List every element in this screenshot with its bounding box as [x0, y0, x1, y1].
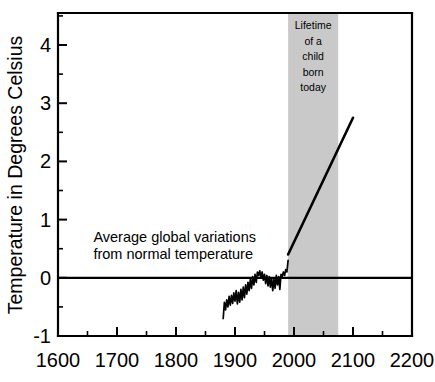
- y-tick-label-2: 1: [40, 209, 51, 231]
- y-tick-label-4: 3: [40, 92, 51, 114]
- band-label-0-line-2: child: [302, 50, 324, 62]
- annotation-0-line-1: from normal temperature: [93, 246, 253, 262]
- y-axis-title-text: Temperature in Degrees Celsius: [4, 35, 26, 314]
- plot-background: [58, 13, 412, 336]
- annotation-0-line-0: Average global variations: [93, 229, 256, 245]
- x-tick-label-4: 2000: [272, 349, 317, 371]
- x-tick-label-3: 1900: [213, 349, 258, 371]
- band-label-0-line-3: born: [303, 66, 324, 78]
- band-label-0-line-4: today: [300, 81, 326, 93]
- plot-annotations: Average global variationsfrom normal tem…: [93, 229, 256, 262]
- chart-container: 1600170018001900200021002200 -101234 Tem…: [0, 0, 435, 382]
- y-axis-tick-labels: -101234: [33, 34, 51, 347]
- x-tick-label-0: 1600: [36, 349, 81, 371]
- band-label-0-line-0: Lifetime: [295, 19, 332, 31]
- x-tick-label-5: 2100: [331, 349, 376, 371]
- y-tick-label-1: 0: [40, 267, 51, 289]
- temperature-projection-chart: 1600170018001900200021002200 -101234 Tem…: [0, 0, 435, 382]
- x-tick-label-1: 1700: [95, 349, 140, 371]
- band-label-0-line-1: of a: [304, 35, 322, 47]
- y-axis-title: Temperature in Degrees Celsius: [4, 35, 26, 314]
- x-tick-label-6: 2200: [390, 349, 435, 371]
- y-tick-label-5: 4: [40, 34, 51, 56]
- x-axis-tick-labels: 1600170018001900200021002200: [36, 349, 435, 371]
- x-tick-label-2: 1800: [154, 349, 199, 371]
- y-tick-label-3: 2: [40, 150, 51, 172]
- y-tick-label-0: -1: [33, 325, 51, 347]
